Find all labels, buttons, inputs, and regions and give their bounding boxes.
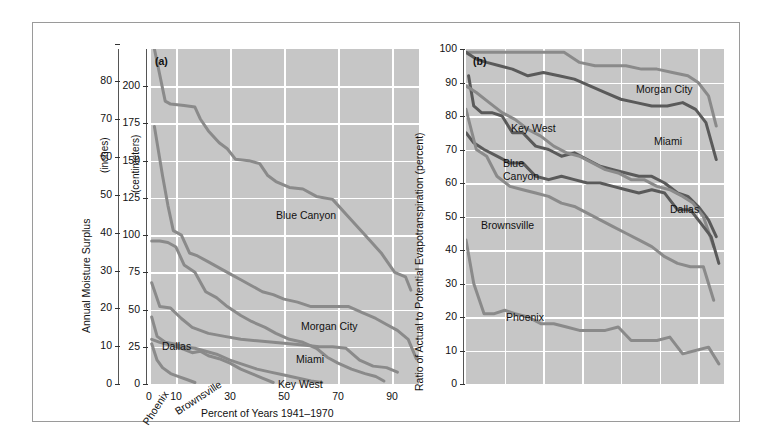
x-tick-label: 70 <box>326 390 350 402</box>
series-label-blue-canyon-line2: Canyon <box>503 170 539 183</box>
tick-mark <box>460 317 465 318</box>
y-tick-label-inches: 10 <box>85 339 112 351</box>
y-tick-label-centimeters: 75 <box>111 265 140 277</box>
tick-mark <box>143 86 148 87</box>
tick-mark <box>143 384 148 385</box>
y-tick-label-percent: 70 <box>427 143 457 155</box>
panel-a-cm-axis <box>146 49 147 384</box>
panel-b-curves <box>466 49 724 384</box>
series-label-key-west: Key West <box>511 122 556 134</box>
y-tick-label-inches: 30 <box>85 264 112 276</box>
y-tick-label-percent: 80 <box>427 109 457 121</box>
tick-mark <box>143 310 148 311</box>
x-tick-label: 50 <box>272 390 296 402</box>
panel-a-inches-axis <box>118 49 119 384</box>
x-tick-label: 10 <box>164 390 188 402</box>
y-tick-label-percent: 40 <box>427 243 457 255</box>
series-label-key-west: Key West <box>278 378 323 390</box>
tick-mark <box>460 284 465 285</box>
tick-mark <box>460 351 465 352</box>
panel-a-x-axis-title: Percent of Years 1941–1970 <box>201 407 334 419</box>
y-tick-label-inches: 60 <box>85 150 112 162</box>
y-tick-label-percent: 60 <box>427 176 457 188</box>
series-label-blue-canyon: BlueCanyon <box>503 157 539 183</box>
y-tick-label-centimeters: 175 <box>111 116 140 128</box>
tick-mark <box>143 123 148 124</box>
series-line-dallas <box>466 133 719 264</box>
y-tick-label-centimeters: 150 <box>111 154 140 166</box>
tick-mark <box>143 161 148 162</box>
panel-b-plot-area <box>466 49 724 384</box>
y-tick-label-centimeters: 100 <box>111 228 140 240</box>
tick-mark <box>115 44 120 45</box>
y-tick-label-percent: 0 <box>427 377 457 389</box>
series-line-phoenix <box>466 240 719 364</box>
y-tick-label-inches: 0 <box>85 377 112 389</box>
figure-frame: (inches) Annual Moisture Surplus (centim… <box>32 22 740 422</box>
tick-mark <box>460 250 465 251</box>
panel-b-y-axis-title: Ratio of Actual to Potential Evapotransp… <box>413 132 425 391</box>
series-line-miami <box>152 241 384 381</box>
series-label-brownsville: Brownsville <box>481 219 534 231</box>
series-label-morgan-city: Morgan City <box>636 83 693 95</box>
tick-mark <box>460 183 465 184</box>
series-label-phoenix: Phoenix <box>506 311 544 323</box>
series-label-dallas: Dallas <box>670 203 699 215</box>
tick-mark <box>143 272 148 273</box>
y-tick-label-inches: 70 <box>85 112 112 124</box>
y-tick-label-percent: 10 <box>427 344 457 356</box>
y-tick-label-centimeters: 125 <box>111 191 140 203</box>
series-label-blue-canyon-line1: Blue <box>503 157 539 170</box>
series-label-blue-canyon: Blue Canyon <box>276 209 336 221</box>
y-tick-label-centimeters: 0 <box>111 377 140 389</box>
tick-mark <box>460 49 465 50</box>
y-tick-label-inches: 50 <box>85 188 112 200</box>
x-tick-label: 90 <box>380 390 404 402</box>
series-label-morgan-city: Morgan City <box>301 320 358 332</box>
tick-mark <box>460 150 465 151</box>
y-tick-label-inches: 40 <box>85 226 112 238</box>
x-tick-label: 0 <box>137 390 161 402</box>
y-tick-label-centimeters: 50 <box>111 303 140 315</box>
y-tick-label-percent: 100 <box>427 42 457 54</box>
series-label-miami: Miami <box>654 135 682 147</box>
tick-mark <box>460 384 465 385</box>
panel-a-tag: (a) <box>155 55 168 67</box>
tick-mark <box>143 198 148 199</box>
y-tick-label-percent: 30 <box>427 277 457 289</box>
y-tick-label-percent: 20 <box>427 310 457 322</box>
series-label-dallas: Dallas <box>162 340 191 352</box>
tick-mark <box>460 83 465 84</box>
x-tick-label: 30 <box>218 390 242 402</box>
tick-mark <box>143 347 148 348</box>
tick-mark <box>143 235 148 236</box>
tick-mark <box>460 116 465 117</box>
series-label-miami: Miami <box>296 353 324 365</box>
y-tick-label-inches: 80 <box>85 74 112 86</box>
y-tick-label-centimeters: 25 <box>111 340 140 352</box>
y-tick-label-inches: 20 <box>85 301 112 313</box>
y-tick-label-percent: 90 <box>427 76 457 88</box>
series-line-morgan-city <box>154 126 416 358</box>
tick-mark <box>460 217 465 218</box>
y-tick-label-centimeters: 200 <box>111 79 140 91</box>
y-tick-label-percent: 50 <box>427 210 457 222</box>
panel-b-tag: (b) <box>473 55 486 67</box>
